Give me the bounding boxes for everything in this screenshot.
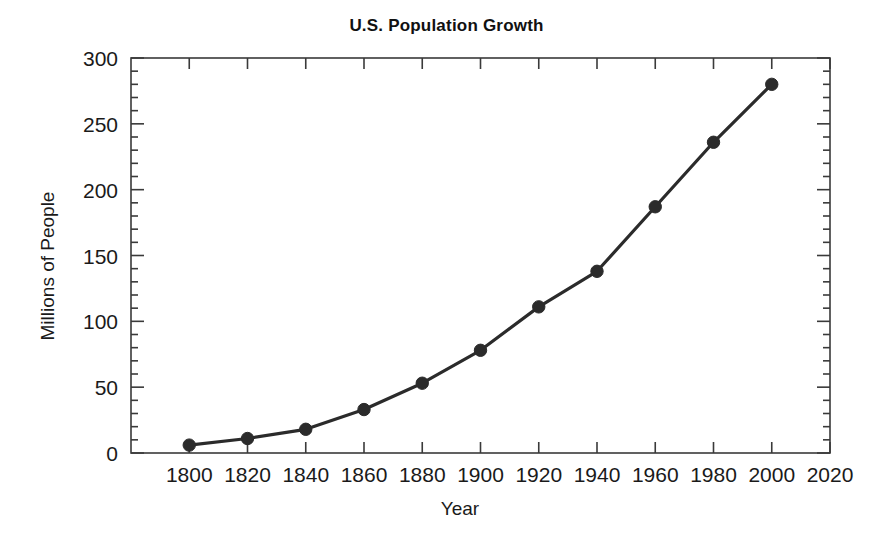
plot-area: 050100150200250300 180018201840186018801…: [0, 0, 893, 548]
y-axis-minor-ticks: [131, 71, 830, 440]
y-tick-label: 50: [95, 376, 118, 399]
data-point-marker: [591, 265, 603, 277]
y-tick-label: 200: [83, 179, 118, 202]
plot-box-border: [131, 58, 830, 453]
data-point-marker: [358, 403, 370, 415]
x-tick-label: 1900: [457, 463, 504, 486]
data-point-marker: [300, 423, 312, 435]
data-point-marker: [766, 78, 778, 90]
x-tick-label: 1960: [632, 463, 679, 486]
data-line-series: [189, 84, 772, 445]
x-tick-label: 1800: [166, 463, 213, 486]
x-tick-label: 1920: [515, 463, 562, 486]
data-point-marker: [707, 136, 719, 148]
x-tick-label: 2020: [807, 463, 854, 486]
data-line: [189, 84, 772, 445]
y-tick-label: 150: [83, 245, 118, 268]
data-point-marker: [416, 377, 428, 389]
data-point-markers: [183, 78, 778, 451]
y-axis-major-ticks: [131, 58, 830, 453]
y-tick-label: 250: [83, 113, 118, 136]
data-point-marker: [241, 432, 253, 444]
x-tick-label: 1980: [690, 463, 737, 486]
x-tick-label: 1860: [341, 463, 388, 486]
x-tick-label: 1940: [574, 463, 621, 486]
y-tick-label: 0: [106, 442, 118, 465]
y-axis-tick-labels: 050100150200250300: [83, 47, 118, 465]
x-tick-label: 1840: [282, 463, 329, 486]
x-tick-label: 2000: [748, 463, 795, 486]
chart-figure: U.S. Population Growth Millions of Peopl…: [0, 0, 893, 548]
data-point-marker: [533, 301, 545, 313]
y-tick-label: 300: [83, 47, 118, 70]
plot-frame: [131, 58, 830, 453]
x-axis-tick-labels: 1800182018401860188019001920194019601980…: [166, 463, 853, 486]
data-point-marker: [474, 344, 486, 356]
x-tick-label: 1820: [224, 463, 271, 486]
x-axis-major-ticks: [189, 58, 830, 453]
y-tick-label: 100: [83, 310, 118, 333]
data-point-marker: [649, 201, 661, 213]
data-point-marker: [183, 439, 195, 451]
x-tick-label: 1880: [399, 463, 446, 486]
